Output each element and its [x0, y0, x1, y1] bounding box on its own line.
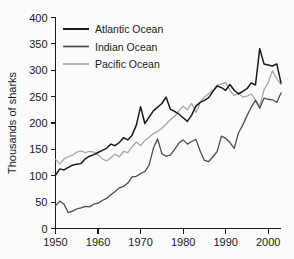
x-tick-label: 1980 — [171, 236, 195, 248]
y-tick-label: 100 — [29, 170, 47, 182]
chart-figure: 050100150200250300350400 195019601970198… — [0, 0, 294, 259]
x-tick-label: 1960 — [86, 236, 110, 248]
x-tick-label: 1990 — [213, 236, 237, 248]
y-tick-label: 350 — [29, 38, 47, 50]
legend-label-0: Atlantic Ocean — [95, 23, 163, 35]
line-chart: 050100150200250300350400 195019601970198… — [0, 0, 294, 259]
legend-label-2: Pacific Ocean — [95, 58, 160, 70]
y-axis-title: Thousands of sharks — [6, 71, 18, 174]
y-tick-label: 50 — [35, 196, 47, 208]
y-tick-label: 150 — [29, 143, 47, 155]
x-tick-label: 1950 — [43, 236, 67, 248]
legend-label-1: Indian Ocean — [95, 41, 158, 53]
y-tick-label: 300 — [29, 64, 47, 76]
y-tick-label: 400 — [29, 12, 47, 24]
y-tick-label: 0 — [41, 223, 47, 235]
y-tick-label: 200 — [29, 117, 47, 129]
y-tick-label: 250 — [29, 91, 47, 103]
x-tick-label: 2000 — [256, 236, 280, 248]
x-tick-label: 1970 — [128, 236, 152, 248]
